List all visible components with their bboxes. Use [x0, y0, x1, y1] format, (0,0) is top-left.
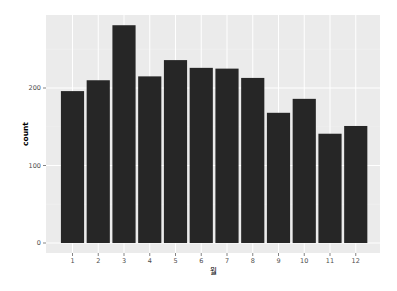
bar: [190, 68, 213, 243]
x-tick-label: 10: [300, 257, 308, 265]
bar: [215, 69, 238, 243]
bar: [241, 78, 264, 243]
y-axis-title: count: [21, 122, 30, 146]
x-tick-label: 6: [199, 257, 203, 265]
x-tick-label: 2: [96, 257, 100, 265]
x-axis: 123456789101112: [70, 253, 359, 265]
bar: [164, 60, 187, 243]
bar: [61, 91, 84, 243]
y-tick-label: 100: [29, 162, 41, 170]
x-tick-label: 1: [70, 257, 74, 265]
y-tick-label: 0: [37, 239, 41, 247]
x-tick-label: 12: [352, 257, 360, 265]
bar: [87, 80, 110, 243]
x-tick-label: 5: [173, 257, 177, 265]
bar: [112, 25, 135, 243]
x-tick-label: 8: [251, 257, 255, 265]
y-tick-label: 200: [29, 84, 41, 92]
x-tick-label: 9: [276, 257, 280, 265]
bar: [344, 126, 367, 243]
x-tick-label: 11: [326, 257, 334, 265]
bar: [138, 76, 161, 243]
bar-chart: 0100200 123456789101112 월 count: [0, 0, 397, 291]
bar: [267, 113, 290, 243]
y-axis: 0100200: [29, 84, 46, 247]
x-tick-label: 3: [122, 257, 126, 265]
bar: [318, 134, 341, 243]
x-tick-label: 7: [225, 257, 229, 265]
bar: [293, 99, 316, 243]
x-axis-title: 월: [210, 266, 217, 276]
x-tick-label: 4: [148, 257, 152, 265]
